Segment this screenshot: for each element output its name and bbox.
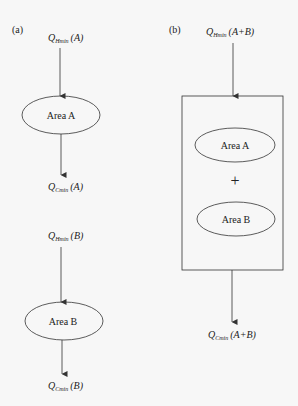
q-hmin-b-label: QHmin(B)	[48, 230, 84, 242]
svg-text:QCmin(B): QCmin(B)	[48, 380, 84, 392]
panel-a-label: (a)	[12, 24, 23, 36]
svg-text:QHmin(B): QHmin(B)	[48, 230, 84, 242]
area-b-label: Area B	[49, 316, 78, 327]
q-cmin-a-label: QCmin(A)	[48, 181, 84, 193]
area-a-label: Area A	[47, 110, 76, 121]
svg-text:QHmin(A+B): QHmin(A+B)	[206, 26, 255, 38]
q-hmin-ab-label: QHmin(A+B)	[206, 26, 255, 38]
svg-text:QHmin(A): QHmin(A)	[48, 32, 84, 44]
box-area-a-label: Area A	[221, 140, 250, 151]
q-cmin-ab-label: QCmin(A+B)	[208, 329, 257, 341]
q-cmin-b-label: QCmin(B)	[48, 380, 84, 392]
svg-text:QCmin(A): QCmin(A)	[48, 181, 84, 193]
plus-operator: +	[230, 172, 239, 189]
panel-b-label: (b)	[169, 24, 181, 36]
q-hmin-a-label: QHmin(A)	[48, 32, 84, 44]
svg-text:QCmin(A+B): QCmin(A+B)	[208, 329, 257, 341]
diagram-canvas: (a) QHmin(A) Area A QCmin(A) QHmin(B) Ar…	[0, 0, 298, 406]
box-area-b-label: Area B	[222, 214, 251, 225]
